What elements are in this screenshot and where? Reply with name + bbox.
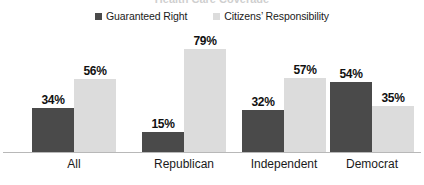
bar-value-label: 34% [41, 94, 64, 107]
bar-guaranteed-right[interactable]: 15% [142, 132, 184, 152]
plot-area: 34% 56% 15% 79% 32% [0, 0, 424, 153]
bar-value-label: 35% [381, 92, 404, 105]
bar-pair: 54% 35% [330, 12, 414, 152]
bar-value-label: 79% [193, 35, 216, 48]
bar-group-all: 34% 56% [32, 12, 116, 152]
x-tick-label-all: All [32, 156, 116, 172]
bar-citizens-responsibility[interactable]: 79% [184, 49, 226, 152]
bar-guaranteed-right[interactable]: 34% [32, 108, 74, 152]
bar-pair: 32% 57% [242, 12, 326, 152]
bar-citizens-responsibility[interactable]: 56% [74, 79, 116, 152]
bar-value-label: 57% [293, 64, 316, 77]
bar-guaranteed-right[interactable]: 32% [242, 110, 284, 152]
x-axis-baseline [3, 152, 421, 153]
bar-pair: 34% 56% [32, 12, 116, 152]
bar-value-label: 56% [83, 65, 106, 78]
x-tick-label-republican: Republican [142, 156, 226, 172]
bar-guaranteed-right[interactable]: 54% [330, 82, 372, 152]
bar-group-independent: 32% 57% [242, 12, 326, 152]
x-axis-category-labels: All Republican Independent Democrat [0, 156, 424, 176]
bar-value-label: 32% [251, 96, 274, 109]
bar-pair: 15% 79% [142, 12, 226, 152]
bar-value-label: 54% [339, 68, 362, 81]
x-tick-label-democrat: Democrat [330, 156, 414, 172]
bar-group-republican: 15% 79% [142, 12, 226, 152]
x-tick-label-independent: Independent [242, 156, 326, 172]
bar-citizens-responsibility[interactable]: 35% [372, 106, 414, 152]
bar-value-label: 15% [151, 118, 174, 131]
grouped-bar-chart: Health Care Coverage Guaranteed Right Ci… [0, 0, 424, 185]
bar-group-democrat: 54% 35% [330, 12, 414, 152]
bar-citizens-responsibility[interactable]: 57% [284, 78, 326, 152]
